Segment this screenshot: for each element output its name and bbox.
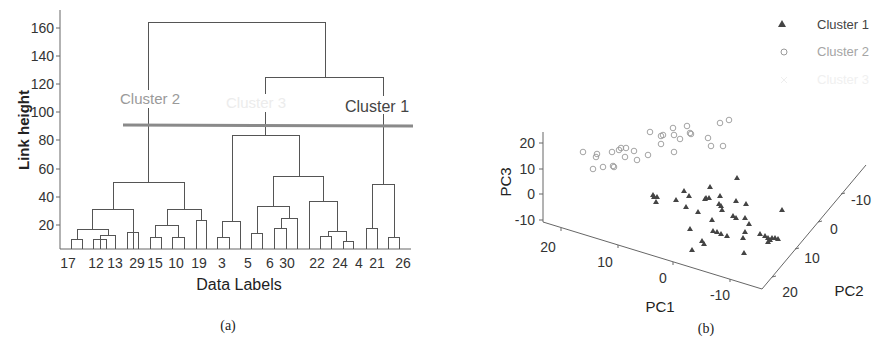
data-point [670, 125, 676, 131]
leaf-label: 6 [266, 255, 274, 271]
y-ticks: 160 140 120 100 80 60 40 20 [31, 20, 60, 233]
scatter-points [580, 117, 785, 255]
leaf-label: 15 [147, 255, 163, 271]
pc2-tick-label: 10 [804, 250, 820, 266]
y-tick-label: 80 [38, 132, 54, 148]
leaf-label: 19 [191, 255, 207, 271]
data-point [684, 123, 690, 129]
data-point [733, 198, 739, 203]
data-point [622, 154, 628, 160]
pc3-tick-label: -10 [515, 212, 535, 228]
y-tick-label: 140 [31, 48, 55, 64]
data-point [709, 217, 715, 222]
pc1-axis-title: PC1 [645, 298, 674, 315]
pc3-tick-label: 10 [519, 161, 535, 177]
data-point [707, 184, 713, 189]
data-point [580, 149, 586, 155]
figure: 160 140 120 100 80 60 40 20 Link height [0, 0, 886, 357]
leaf-label: 3 [218, 255, 226, 271]
data-point [740, 235, 746, 240]
y-tick-label: 20 [38, 217, 54, 233]
data-point [671, 149, 677, 155]
panel-a-caption: (a) [220, 318, 236, 334]
data-point [695, 209, 701, 214]
leaf-label: 30 [279, 255, 295, 271]
cluster-1-label: Cluster 1 [345, 98, 409, 115]
leaf-label: 10 [168, 255, 184, 271]
data-point [717, 193, 723, 198]
pc2-tick-label: 20 [782, 284, 798, 300]
data-point [779, 207, 785, 212]
legend-item-cluster-1: Cluster 1 [778, 17, 869, 32]
data-point [689, 247, 695, 252]
legend-label: Cluster 2 [817, 44, 869, 59]
cluster-3-label: Cluster 3 [226, 94, 286, 111]
y-tick-label: 160 [31, 20, 55, 36]
data-point [708, 143, 714, 149]
data-point [660, 132, 666, 138]
pc1-axis [543, 222, 762, 289]
y-tick-label: 120 [31, 76, 55, 92]
legend-label: Cluster 1 [817, 17, 869, 32]
legend: Cluster 1 Cluster 2 Cluster 3 [778, 17, 869, 87]
y-axis-title: Link height [15, 90, 32, 170]
legend-label: Cluster 3 [817, 72, 869, 87]
data-point [724, 233, 730, 238]
pc2-axis [762, 165, 866, 289]
data-point [658, 141, 664, 147]
dendrogram-links [71, 22, 399, 249]
leaf-label: 13 [107, 255, 123, 271]
pc3-axis-title: PC3 [497, 167, 514, 196]
leaf-label: 22 [309, 255, 325, 271]
circle-marker-icon [781, 49, 787, 55]
data-point [705, 135, 711, 141]
data-point [686, 193, 692, 198]
y-tick-label: 40 [38, 189, 54, 205]
data-point [683, 204, 689, 209]
leaf-labels: 17 12 13 29 15 10 19 3 5 6 30 22 24 4 21… [60, 255, 411, 271]
data-point [720, 143, 726, 149]
leaf-label: 17 [60, 255, 76, 271]
pc1-tick-label: 10 [597, 254, 613, 270]
pc1-tick-label: 20 [540, 239, 556, 255]
pc1-tick-label: 0 [659, 270, 667, 286]
pc3-tick-label: 0 [527, 186, 535, 202]
data-point [634, 157, 640, 163]
data-point [726, 117, 732, 123]
pc3-tick-label: 20 [519, 135, 535, 151]
data-point [742, 229, 748, 234]
x-axis-title: Data Labels [196, 276, 281, 293]
panel-b-caption: (b) [698, 321, 715, 337]
leaf-label: 29 [129, 255, 145, 271]
data-point [677, 136, 683, 142]
data-point [734, 175, 740, 180]
pc2-tick-label: -10 [851, 192, 871, 208]
data-point [757, 231, 763, 236]
leaf-label: 24 [332, 255, 348, 271]
data-point [590, 166, 596, 172]
data-point [681, 188, 687, 193]
data-point [671, 132, 677, 138]
data-point [743, 201, 749, 206]
data-point [717, 120, 723, 126]
x-marker-icon [781, 77, 787, 83]
dendrogram-panel: 160 140 120 100 80 60 40 20 Link height [15, 10, 414, 334]
data-point [609, 149, 615, 155]
leaf-label: 4 [355, 255, 363, 271]
scatter3d-panel: 20 10 0 -10 PC3 20 10 0 -10 PC1 20 10 0 … [497, 17, 871, 337]
legend-item-cluster-2: Cluster 2 [781, 44, 869, 59]
y-tick-label: 100 [31, 104, 55, 120]
y-tick-label: 60 [38, 161, 54, 177]
leaf-label: 12 [88, 255, 104, 271]
pc2-tick-label: 0 [830, 221, 838, 237]
data-point [741, 250, 747, 255]
data-point [653, 199, 659, 204]
data-point [742, 215, 748, 220]
data-point [673, 197, 679, 202]
data-point [600, 164, 606, 170]
triangle-marker-icon [778, 20, 786, 27]
leaf-label: 5 [244, 255, 252, 271]
data-point [631, 148, 637, 154]
data-point [746, 221, 752, 226]
pc1-tick-label: -10 [710, 287, 730, 303]
